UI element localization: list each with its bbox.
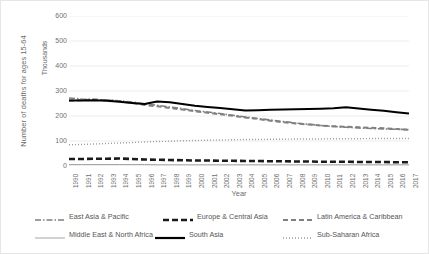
x-axis-tick-label: 1994 (122, 166, 132, 188)
legend-row: East Asia & PacificEurope & Central Asia… (35, 208, 413, 224)
legend-label: Middle East & North Africa (69, 230, 153, 239)
y-axis-tick-label: 400 (41, 62, 67, 70)
legend-item[interactable]: South Asia (155, 226, 223, 242)
x-axis-tick-label: 1999 (185, 166, 195, 188)
legend-swatch-icon (35, 211, 65, 221)
legend-item[interactable]: Middle East & North Africa (35, 226, 153, 242)
x-axis-tick-label: 1990 (72, 166, 82, 188)
x-axis-title: Year (69, 189, 409, 198)
x-axis-tick-label: 1992 (97, 166, 107, 188)
y-axis-title: Number of deaths for ages 15-64 (19, 1, 33, 181)
legend-row: Middle East & North AfricaSouth AsiaSub-… (35, 226, 413, 242)
legend-item[interactable]: Europe & Central Asia (163, 208, 268, 224)
x-axis-tick-label: 2000 (198, 166, 208, 188)
legend-swatch-icon (283, 229, 313, 239)
legend-label: South Asia (189, 230, 223, 239)
x-axis-tick-label: 2015 (387, 166, 397, 188)
data-series-group (69, 98, 409, 165)
legend-swatch-icon (283, 211, 313, 221)
x-axis-tick-label: 2011 (336, 166, 346, 188)
legend-item[interactable]: Latin America & Caribbean (283, 208, 403, 224)
legend-swatch-icon (155, 229, 185, 239)
plot-area (69, 16, 409, 166)
legend-item[interactable]: East Asia & Pacific (35, 208, 129, 224)
x-axis-tick-label: 2004 (248, 166, 258, 188)
x-axis-tick-labels: 1990199119921993199419951996199719981999… (69, 168, 409, 190)
series-line (69, 139, 409, 145)
y-axis-tick-label: 0 (41, 162, 67, 170)
x-axis-tick-label: 1996 (148, 166, 158, 188)
series-line (69, 159, 409, 163)
y-axis-tick-label: 600 (41, 12, 67, 20)
x-axis-tick-label: 2002 (223, 166, 233, 188)
legend-item[interactable]: Sub-Saharan Africa (283, 226, 379, 242)
x-axis-tick-label: 2014 (374, 166, 384, 188)
legend-swatch-icon (163, 211, 193, 221)
chart-legend: East Asia & PacificEurope & Central Asia… (35, 206, 413, 248)
x-axis-tick-label: 2013 (362, 166, 372, 188)
legend-label: East Asia & Pacific (69, 212, 129, 221)
x-axis-tick-label: 2009 (311, 166, 321, 188)
x-axis-tick-label: 2003 (236, 166, 246, 188)
x-axis-tick-label: 2001 (211, 166, 221, 188)
x-axis-tick-label: 2012 (349, 166, 359, 188)
legend-label: Sub-Saharan Africa (317, 230, 379, 239)
x-axis-tick-label: 2010 (324, 166, 334, 188)
y-axis-tick-labels: 0100200300400500600 (37, 16, 67, 166)
legend-label: Europe & Central Asia (197, 212, 268, 221)
x-axis-tick-label: 2008 (299, 166, 309, 188)
chart-plot-svg (69, 16, 409, 166)
series-line (69, 100, 409, 130)
y-axis-tick-label: 200 (41, 112, 67, 120)
x-axis-tick-label: 1995 (135, 166, 145, 188)
y-axis-tick-label: 500 (41, 37, 67, 45)
x-axis-tick-label: 1997 (160, 166, 170, 188)
y-axis-tick-label: 300 (41, 87, 67, 95)
x-axis-tick-label: 1991 (85, 166, 95, 188)
x-axis-tick-label: 2005 (261, 166, 271, 188)
x-axis-tick-label: 2016 (399, 166, 409, 188)
legend-swatch-icon (35, 229, 65, 239)
x-axis-tick-label: 1998 (173, 166, 183, 188)
legend-label: Latin America & Caribbean (317, 212, 403, 221)
x-axis-tick-label: 2007 (286, 166, 296, 188)
x-axis-tick-label: 1993 (110, 166, 120, 188)
x-axis-tick-label: 2017 (412, 166, 422, 188)
chart-container: Number of deaths for ages 15-64 Thousand… (0, 0, 429, 254)
series-line (69, 100, 409, 113)
x-axis-tick-label: 2006 (273, 166, 283, 188)
y-axis-tick-label: 100 (41, 137, 67, 145)
